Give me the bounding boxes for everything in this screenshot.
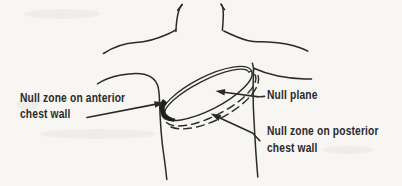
posterior-arrow <box>211 114 260 141</box>
posterior-zone-hatched-rim <box>162 66 252 116</box>
label-posterior-null-zone: Null zone on posterior chest wall <box>267 122 379 156</box>
label-anterior-line2: chest wall <box>20 106 125 122</box>
rear-rim-dashed-outer <box>171 76 259 129</box>
label-anterior-line1: Null zone on anterior <box>20 90 125 106</box>
right-arm-line <box>254 68 312 79</box>
diagram-canvas: Null zone on anterior chest wall Null pl… <box>0 0 402 186</box>
label-null-plane-text: Null plane <box>267 87 318 103</box>
label-posterior-line1: Null zone on posterior <box>267 122 379 139</box>
null-plane-arrow <box>216 89 265 97</box>
rear-rim-dashed-inner <box>167 74 256 127</box>
null-plane-disc <box>160 66 259 128</box>
right-torso-side-line <box>253 69 258 177</box>
right-shoulder-line <box>224 31 308 51</box>
label-anterior-null-zone: Null zone on anterior chest wall <box>20 90 125 121</box>
label-posterior-line2: chest wall <box>267 139 379 156</box>
left-shoulder-line <box>104 30 177 54</box>
label-null-plane: Null plane <box>267 87 318 103</box>
